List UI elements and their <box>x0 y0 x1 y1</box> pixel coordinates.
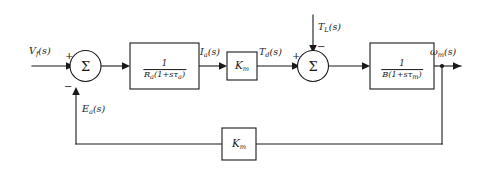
sum2-minus-sign: − <box>317 42 325 52</box>
sum2-sigma-symbol: Σ <box>308 60 317 73</box>
block-diagram-canvas: Vf(s) + − Σ 1 Ra(1+sτa) Ia(s) Km Td(s) +… <box>0 0 477 171</box>
block-mechanical-label: 1 B(1+sτm) <box>381 59 423 81</box>
arrowhead-feedback-into-sum1 <box>72 87 80 95</box>
sum1-sigma-symbol: Σ <box>81 60 90 73</box>
arrowhead-sum1-to-armature-block <box>122 62 130 70</box>
sum2-plus-sign: + <box>292 51 300 61</box>
mechanical-fraction: 1 B(1+sτm) <box>381 59 423 81</box>
arrowhead-sum2-to-mechanical <box>362 62 370 70</box>
label-output-speed: ωm(s) <box>430 47 456 58</box>
sum1-plus-sign: + <box>65 51 73 61</box>
block-torque-constant-label: Km <box>235 60 249 72</box>
label-armature-current: Ia(s) <box>200 47 220 58</box>
label-input-signal: Vf(s) <box>29 46 51 57</box>
label-back-emf: Ea(s) <box>82 104 105 115</box>
mechanical-denominator: B(1+sτm) <box>381 70 423 81</box>
block-armature-label: 1 Ra(1+sτa) <box>143 59 186 81</box>
armature-fraction: 1 Ra(1+sτa) <box>143 59 186 81</box>
arrowhead-output <box>453 62 461 70</box>
arrowhead-armature-to-km <box>219 62 227 70</box>
block-feedback-gain-label: Km <box>232 138 246 150</box>
label-load-torque: TL(s) <box>318 22 341 33</box>
sum1-minus-sign: − <box>64 82 72 92</box>
label-developed-torque: Td(s) <box>259 47 282 58</box>
armature-denominator: Ra(1+sτa) <box>143 70 186 81</box>
